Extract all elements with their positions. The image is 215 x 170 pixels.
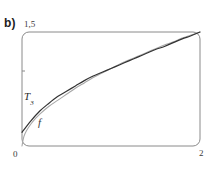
curve-function-path xyxy=(22,32,200,146)
plot-canvas xyxy=(0,0,215,170)
figure-container: b) 1,5 0 2 T3 f xyxy=(0,0,215,170)
plot-frame xyxy=(22,32,200,146)
curve-taylor-path xyxy=(22,32,200,132)
